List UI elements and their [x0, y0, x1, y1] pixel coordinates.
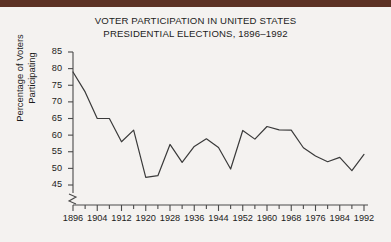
chart-page: VOTER PARTICIPATION IN UNITED STATES PRE…: [0, 7, 391, 242]
data-series-line: [73, 72, 364, 177]
plot-area: Percentage of Voters Participating 45505…: [0, 7, 391, 242]
scan-artifact-top-bar: [0, 0, 391, 7]
y-axis-break-symbol: [69, 194, 76, 204]
chart-canvas: [0, 7, 391, 242]
